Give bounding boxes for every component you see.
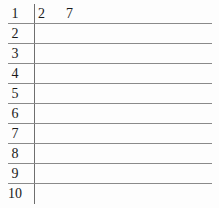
leaf-value: 2 xyxy=(38,4,66,24)
plot-row: 5 xyxy=(0,84,219,104)
stem-value: 8 xyxy=(0,144,30,164)
plot-row: 8 xyxy=(0,144,219,164)
plot-row: 4 xyxy=(0,64,219,84)
stem-value: 2 xyxy=(0,24,30,44)
stem-value: 4 xyxy=(0,64,30,84)
stem-value: 10 xyxy=(0,184,30,204)
plot-row: 7 xyxy=(0,124,219,144)
stem-value: 1 xyxy=(0,4,30,24)
stem-value: 6 xyxy=(0,104,30,124)
plot-row: 10 xyxy=(0,184,219,204)
plot-row: 3 xyxy=(0,44,219,64)
plot-row: 6 xyxy=(0,104,219,124)
stem-value: 7 xyxy=(0,124,30,144)
leaf-group: 27 xyxy=(38,4,94,24)
stem-value: 3 xyxy=(0,44,30,64)
plot-rows: 1272345678910 xyxy=(0,0,219,208)
stem-value: 9 xyxy=(0,164,30,184)
stem-value: 5 xyxy=(0,84,30,104)
plot-row: 2 xyxy=(0,24,219,44)
stem-and-leaf-plot: 1272345678910 xyxy=(0,0,219,208)
plot-row: 127 xyxy=(0,4,219,24)
plot-row: 9 xyxy=(0,164,219,184)
leaf-value: 7 xyxy=(66,4,94,24)
